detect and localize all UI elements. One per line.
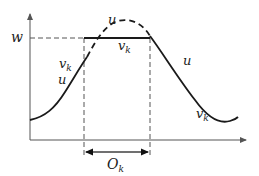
label-vk-left: vk [59,56,72,73]
diagram-canvas: w u vk u vk u vk Ok [0,0,259,176]
label-u-left: u [58,72,66,87]
label-interval-Ok: Ok [107,156,124,174]
u-curve-right [150,36,238,122]
label-vk-top: vk [118,38,131,55]
label-w: w [11,29,23,45]
label-vk-right: vk [196,106,209,123]
label-u-right: u [183,53,191,68]
label-u-peak: u [108,12,116,27]
